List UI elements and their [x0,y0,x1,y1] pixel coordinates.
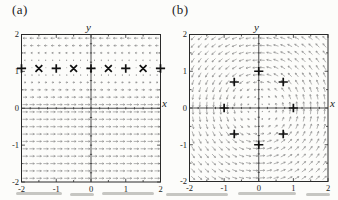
panel-b-plot: -2-2-1-1001122 [180,29,330,193]
y-tick-label: 0 [15,103,19,113]
y-tick-label: 1 [183,66,187,76]
y-tick-label: -2 [12,177,19,187]
y-tick-label: 1 [15,66,19,76]
cropped-caption-remnant [0,191,338,200]
y-tick-label: 2 [15,29,19,39]
tick-labels: -2-2-1-1001122 [180,29,330,193]
solution-point-markers [17,64,165,72]
y-tick-label: -1 [180,140,187,150]
y-tick-label: -2 [180,176,187,186]
y-tick-label: 0 [183,103,187,113]
zero-axes [190,35,329,182]
y-tick-label: 2 [183,29,187,39]
direction-field-figure: (a) (b) y x y x -2-2-1-1001122-2-2-1-100… [0,0,338,200]
panel-a-plot: -2-2-1-1001122 [12,29,165,193]
zero-axes [22,35,161,183]
tick-labels: -2-2-1-1001122 [12,29,163,193]
y-tick-label: -1 [12,140,19,150]
vector-field-plots-svg: -2-2-1-1001122-2-2-1-1001122 [0,0,338,200]
